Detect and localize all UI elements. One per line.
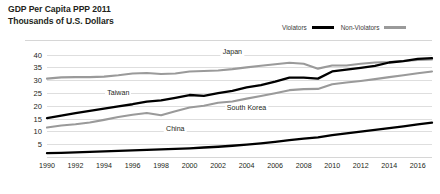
chart-subtitle: Thousands of U.S. Dollars [8, 16, 114, 28]
y-tick-5: 5 [38, 140, 42, 149]
x-tick-2016: 2016 [410, 162, 426, 170]
x-tick-2002: 2002 [210, 162, 226, 170]
y-tick-25: 25 [34, 89, 42, 98]
nonviolators-swatch-icon [384, 26, 406, 28]
violators-swatch-icon [312, 26, 334, 29]
series-label-south-korea: South Korea [225, 104, 268, 112]
series-label-taiwan: Taiwan [105, 89, 131, 97]
chart-legend: Violators Non-Violators [282, 24, 406, 31]
y-axis-labels: 510152025303540 [0, 52, 42, 157]
y-tick-30: 30 [34, 76, 42, 85]
x-tick-2006: 2006 [267, 162, 283, 170]
x-axis-labels: 1990199219941996199820002002200420062008… [0, 162, 440, 176]
x-tick-2012: 2012 [353, 162, 369, 170]
plot-area: JapanTaiwanSouth KoreaChina [47, 52, 432, 157]
x-tick-2004: 2004 [239, 162, 255, 170]
x-tick-2000: 2000 [182, 162, 198, 170]
x-tick-2014: 2014 [381, 162, 397, 170]
series-label-japan: Japan [221, 48, 244, 56]
y-tick-10: 10 [34, 127, 42, 136]
chart-top-rule [25, 40, 432, 41]
x-tick-1994: 1994 [96, 162, 112, 170]
chart-figure: GDP Per Capita PPP 2011 Thousands of U.S… [0, 0, 440, 194]
y-tick-35: 35 [34, 63, 42, 72]
legend-label-violators: Violators [282, 24, 307, 31]
legend-item-nonviolators: Non-Violators [341, 24, 407, 31]
series-line-south-korea [47, 71, 432, 127]
series-label-china: China [164, 125, 187, 133]
x-axis-rule [47, 157, 432, 158]
y-tick-20: 20 [34, 101, 42, 110]
chart-title-block: GDP Per Capita PPP 2011 Thousands of U.S… [8, 4, 114, 27]
x-tick-2010: 2010 [324, 162, 340, 170]
x-tick-2008: 2008 [296, 162, 312, 170]
x-tick-1998: 1998 [153, 162, 169, 170]
legend-item-violators: Violators [282, 24, 334, 31]
x-tick-1992: 1992 [68, 162, 84, 170]
legend-label-nonviolators: Non-Violators [341, 24, 380, 31]
series-line-china [47, 123, 432, 153]
x-tick-1996: 1996 [125, 162, 141, 170]
y-tick-40: 40 [34, 50, 42, 59]
y-tick-15: 15 [34, 114, 42, 123]
page-title: GDP Per Capita PPP 2011 [8, 4, 114, 16]
series-line-japan [47, 59, 432, 78]
x-tick-1990: 1990 [39, 162, 55, 170]
